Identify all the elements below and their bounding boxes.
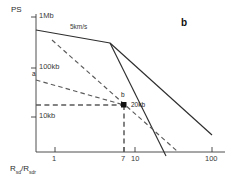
y-axis-title: PS xyxy=(11,6,22,14)
annotation-velocity-5kms: 5km/s xyxy=(70,24,87,31)
x-tick-marks xyxy=(55,147,212,152)
figure-panel-b: PS 1Mb 100kb 10kb 1 7 10 100 Rsd/Rsdr 5k… xyxy=(0,0,235,181)
annotation-point-b: b xyxy=(121,92,125,99)
y-tick-label-10kb: 10kb xyxy=(39,112,55,120)
panel-label-b: b xyxy=(181,18,187,28)
x-tick-label-7: 7 xyxy=(121,155,125,163)
annotation-point-a: a xyxy=(32,71,36,78)
x-axis-title-denominator-subscript: sdr xyxy=(29,169,36,175)
series-5kms-shallow-branch xyxy=(36,30,110,43)
y-tick-marks xyxy=(31,17,36,117)
plot-canvas xyxy=(0,0,235,181)
y-tick-label-100kb: 100kb xyxy=(39,63,59,71)
x-tick-label-100: 100 xyxy=(205,155,218,163)
x-axis-title: Rsd/Rsdr xyxy=(10,165,36,175)
x-tick-label-10: 10 xyxy=(131,155,139,163)
x-tick-label-1: 1 xyxy=(52,155,56,163)
annotation-value-20kb: 20kb xyxy=(131,102,145,109)
series-5kms-steep-branch xyxy=(110,43,212,135)
y-tick-label-1mb: 1Mb xyxy=(39,12,54,20)
series-steep-dashed xyxy=(52,40,177,151)
marker-point-b xyxy=(121,102,127,108)
